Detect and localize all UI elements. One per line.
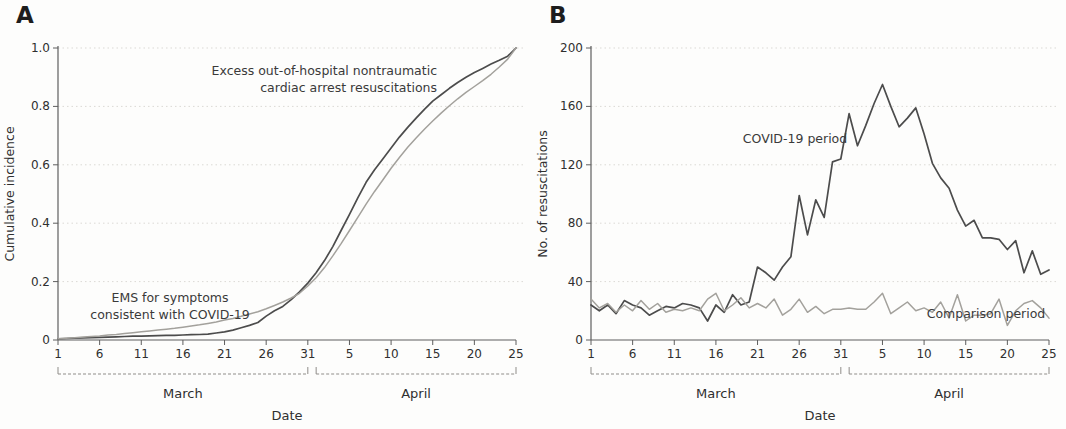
svg-text:31: 31 [300, 347, 315, 361]
annotation-1: Comparison period [927, 306, 1046, 321]
y-axis-title: No. of resuscitations [535, 130, 550, 258]
svg-text:March: March [696, 386, 736, 401]
month-brackets: MarchApril [591, 367, 1049, 401]
svg-text:21: 21 [217, 347, 232, 361]
annotation-0: Excess out-of-hospital nontraumaticcardi… [212, 63, 438, 95]
svg-text:0.8: 0.8 [31, 99, 50, 113]
svg-text:21: 21 [750, 347, 765, 361]
svg-text:1: 1 [54, 347, 62, 361]
svg-text:1.0: 1.0 [31, 41, 50, 55]
svg-text:5: 5 [346, 347, 354, 361]
svg-text:0.2: 0.2 [31, 275, 50, 289]
svg-text:1: 1 [587, 347, 595, 361]
x-axis-title: Date [804, 408, 835, 423]
svg-text:5: 5 [879, 347, 887, 361]
svg-text:11: 11 [134, 347, 149, 361]
svg-text:16: 16 [708, 347, 723, 361]
svg-text:200: 200 [560, 41, 583, 55]
y-axis-title: Cumulative incidence [2, 126, 17, 261]
series-line-0 [591, 85, 1049, 322]
axes [591, 46, 1049, 340]
annotation-1: EMS for symptomsconsistent with COVID-19 [90, 290, 249, 322]
panel-a-chart: 00.20.40.60.81.0161116212631510152025Mar… [0, 0, 533, 429]
svg-text:80: 80 [568, 216, 583, 230]
svg-text:0: 0 [42, 333, 50, 347]
svg-text:25: 25 [1041, 347, 1056, 361]
y-axis-ticks: 04080120160200 [560, 41, 591, 347]
svg-text:10: 10 [916, 347, 931, 361]
two-panel-line-figure: A 00.20.40.60.81.0161116212631510152025M… [0, 0, 1066, 429]
svg-text:10: 10 [383, 347, 398, 361]
svg-text:31: 31 [833, 347, 848, 361]
svg-text:25: 25 [508, 347, 523, 361]
panel-b: B 04080120160200161116212631510152025Mar… [533, 0, 1066, 429]
svg-text:20: 20 [467, 347, 482, 361]
svg-text:April: April [401, 386, 431, 401]
svg-text:26: 26 [792, 347, 807, 361]
svg-text:11: 11 [667, 347, 682, 361]
annotation-0: COVID-19 period [743, 131, 847, 146]
panel-a: A 00.20.40.60.81.0161116212631510152025M… [0, 0, 533, 429]
panel-b-chart: 04080120160200161116212631510152025March… [533, 0, 1066, 429]
svg-text:0.4: 0.4 [31, 216, 50, 230]
x-axis-ticks: 161116212631510152025 [54, 340, 523, 361]
x-axis-title: Date [271, 408, 302, 423]
svg-text:0: 0 [575, 333, 583, 347]
svg-text:6: 6 [629, 347, 637, 361]
svg-text:0.6: 0.6 [31, 158, 50, 172]
svg-text:40: 40 [568, 275, 583, 289]
svg-text:6: 6 [96, 347, 104, 361]
svg-text:16: 16 [175, 347, 190, 361]
svg-text:26: 26 [259, 347, 274, 361]
svg-text:April: April [934, 386, 964, 401]
svg-text:160: 160 [560, 99, 583, 113]
y-axis-ticks: 00.20.40.60.81.0 [31, 41, 58, 347]
svg-text:March: March [163, 386, 203, 401]
gridlines [591, 48, 1057, 282]
svg-text:120: 120 [560, 158, 583, 172]
svg-text:20: 20 [1000, 347, 1015, 361]
svg-text:15: 15 [958, 347, 973, 361]
month-brackets: MarchApril [58, 367, 516, 401]
svg-text:15: 15 [425, 347, 440, 361]
x-axis-ticks: 161116212631510152025 [587, 340, 1056, 361]
